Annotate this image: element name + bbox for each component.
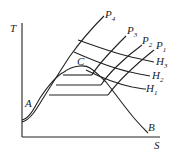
p4-label: P4: [104, 8, 116, 23]
h1-label: H1: [145, 82, 157, 97]
point-c-label: C: [77, 55, 85, 67]
saturation-dome: [22, 66, 148, 133]
point-a-label: A: [24, 97, 32, 109]
ts-diagram-svg: T S A C B P4 P3 P2 P1 H3 H2 H1: [0, 0, 179, 153]
s-axis-label: S: [154, 139, 160, 151]
p1-label: P1: [155, 39, 166, 54]
isenthalp-h2: [74, 52, 150, 76]
h3-label: H3: [155, 55, 168, 70]
ts-diagram: T S A C B P4 P3 P2 P1 H3 H2 H1: [0, 0, 179, 153]
t-axis-label: T: [10, 22, 17, 34]
p3-label: P3: [126, 24, 138, 39]
p2-label: P2: [141, 34, 153, 49]
point-b-label: B: [148, 121, 155, 133]
isenthalp-h1: [86, 70, 146, 89]
